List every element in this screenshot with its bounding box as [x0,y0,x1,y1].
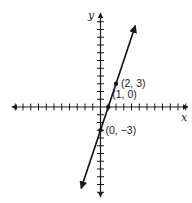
data-point [106,105,110,109]
data-point [114,82,118,86]
point-label: (2, 3) [121,77,146,89]
point-label: (0, −3) [106,124,137,136]
point-label: (1, 0) [112,88,137,100]
coordinate-plane: x y (2, 3)(1, 0)(0, −3) [0,0,192,203]
x-axis-label: x [181,111,188,124]
data-point [98,128,102,132]
y-axis-label: y [87,9,95,22]
